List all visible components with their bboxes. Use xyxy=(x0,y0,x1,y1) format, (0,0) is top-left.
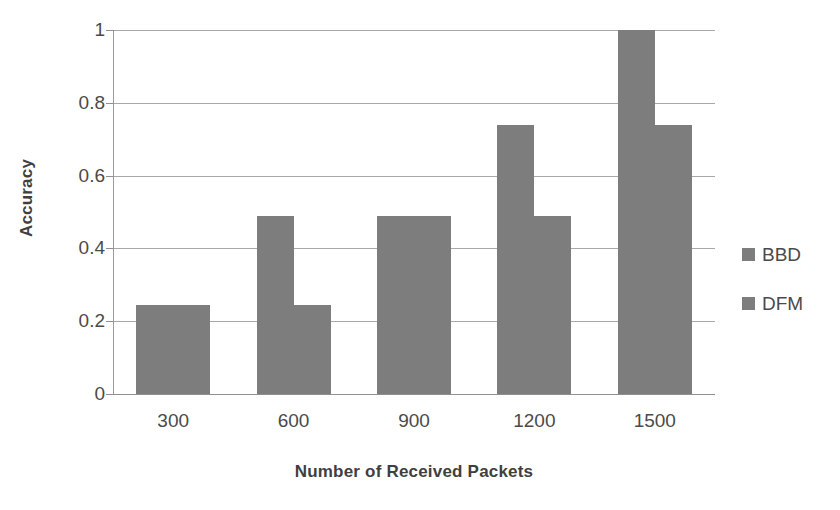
y-axis-tick-mark xyxy=(106,394,114,395)
y-axis-tick-label: 0 xyxy=(59,384,105,403)
legend-swatch-icon xyxy=(742,297,755,310)
y-axis-tick-label: 1 xyxy=(59,20,105,39)
y-axis-tick-mark xyxy=(106,321,114,322)
legend-label: DFM xyxy=(762,294,803,313)
x-axis-tick-label: 1200 xyxy=(474,411,594,430)
y-axis-tick-mark xyxy=(106,30,114,31)
y-axis-tick-label: 0.6 xyxy=(59,166,105,185)
y-axis-tick-mark xyxy=(106,176,114,177)
x-axis-tick-label: 900 xyxy=(354,411,474,430)
x-axis-title: Number of Received Packets xyxy=(113,462,715,482)
y-axis-tick-mark xyxy=(106,248,114,249)
x-axis-tick-label: 300 xyxy=(113,411,233,430)
bar-chart: Accuracy 00.20.40.60.81 3006009001200150… xyxy=(0,0,840,510)
y-axis-tick-mark xyxy=(106,103,114,104)
y-axis-tick-label: 0.8 xyxy=(59,93,105,112)
chart-legend: BBDDFM xyxy=(742,243,837,341)
y-axis-tick-label: 0.2 xyxy=(59,311,105,330)
legend-item-bbd: BBD xyxy=(742,243,837,265)
x-axis-tick-label: 1500 xyxy=(595,411,715,430)
x-axis-tick-labels: 30060090012001500 xyxy=(113,0,715,510)
y-axis-title: Accuracy xyxy=(17,138,37,258)
legend-item-dfm: DFM xyxy=(742,292,837,314)
x-axis-tick-label: 600 xyxy=(233,411,353,430)
y-axis-tick-labels: 00.20.40.60.81 xyxy=(55,0,105,510)
legend-swatch-icon xyxy=(742,248,755,261)
y-axis-tick-label: 0.4 xyxy=(59,238,105,257)
legend-label: BBD xyxy=(762,245,801,264)
